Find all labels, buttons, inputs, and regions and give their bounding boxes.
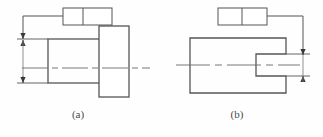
- leader-line-b: [267, 16, 303, 50]
- panel-b: [176, 8, 310, 93]
- callout-box-b[interactable]: [218, 8, 267, 25]
- panel-b-caption: (b): [222, 108, 252, 120]
- part-shaft-a: [48, 39, 105, 83]
- callout-box-a[interactable]: [63, 8, 112, 25]
- part-flange-a: [99, 26, 129, 97]
- panel-a-caption: (a): [63, 108, 93, 120]
- leader-line-a: [23, 16, 63, 35]
- technical-drawing-figure: (a) (b): [0, 0, 323, 137]
- drawing-canvas: [0, 0, 323, 137]
- panel-a: [17, 8, 150, 97]
- callout-box-a-outline: [63, 8, 112, 25]
- part-body-b: [190, 38, 286, 93]
